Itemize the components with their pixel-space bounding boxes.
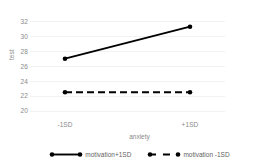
- series-layer: [30, 17, 225, 116]
- y-tick-label: 30: [2, 33, 28, 40]
- series-2: [63, 90, 193, 95]
- legend-swatch-dashed: [147, 150, 181, 159]
- y-tick-label: 24: [2, 78, 28, 85]
- data-point-marker: [188, 24, 193, 29]
- y-tick-label: 28: [2, 48, 28, 55]
- legend-label: motivation -1SD: [183, 151, 229, 159]
- y-tick-label: 22: [2, 92, 28, 99]
- y-tick-label: 20: [2, 107, 28, 114]
- x-axis-title: anxiety: [0, 133, 279, 141]
- plot-area: [30, 17, 225, 116]
- x-tick-label: +1SD: [170, 121, 210, 129]
- y-tick-label: 32: [2, 18, 28, 25]
- series-line: [65, 27, 190, 59]
- data-point-marker: [63, 56, 68, 61]
- legend-item[interactable]: motivation+1SD: [49, 150, 131, 159]
- y-axis-tick-labels: 20222426283032: [0, 0, 28, 166]
- line-chart: test 20222426283032 -1SD+1SDanxiety moti…: [0, 0, 279, 166]
- data-point-marker: [63, 90, 68, 95]
- legend-item[interactable]: motivation -1SD: [147, 150, 229, 159]
- y-tick-label: 26: [2, 63, 28, 70]
- chart-legend: motivation+1SDmotivation -1SD: [0, 150, 279, 159]
- legend-swatch-solid: [49, 150, 83, 159]
- data-point-marker: [188, 90, 193, 95]
- series-1: [63, 24, 193, 61]
- legend-label: motivation+1SD: [85, 151, 131, 159]
- x-tick-label: -1SD: [45, 121, 85, 129]
